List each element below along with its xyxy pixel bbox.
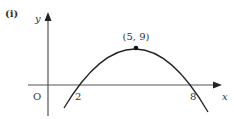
origin-label: O <box>33 91 41 102</box>
parabola-curve <box>64 49 208 112</box>
part-label: (i) <box>5 8 18 19</box>
root-right-label: 8 <box>190 91 196 102</box>
vertex-label: (5, 9) <box>123 31 150 42</box>
y-axis-arrow-icon <box>45 12 52 21</box>
y-axis-label: y <box>34 13 41 24</box>
vertex-point <box>134 46 139 51</box>
x-axis-label: x <box>222 91 228 102</box>
x-axis-arrow-icon <box>213 82 222 89</box>
parabola-diagram: (i) y O 2 8 x (5, 9) <box>0 0 234 119</box>
root-left-label: 2 <box>75 91 81 102</box>
